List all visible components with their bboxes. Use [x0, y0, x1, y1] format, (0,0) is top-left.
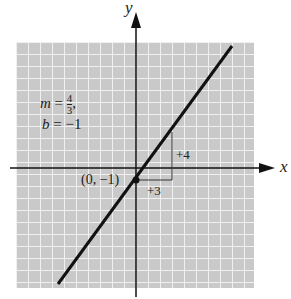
- grid-background: [16, 42, 254, 288]
- intercept-annotation: b = −1: [42, 116, 81, 133]
- graph: [0, 0, 291, 299]
- x-axis-arrow: [259, 163, 275, 173]
- slope-annotation: mm = = 4 3 ,: [40, 93, 76, 116]
- intercept-point: [133, 177, 140, 184]
- y-axis-label: y: [125, 0, 133, 18]
- point-label: (0, −1): [81, 172, 119, 188]
- rise-label: +4: [176, 147, 190, 163]
- run-label: +3: [147, 183, 161, 199]
- x-axis-label: x: [280, 157, 288, 177]
